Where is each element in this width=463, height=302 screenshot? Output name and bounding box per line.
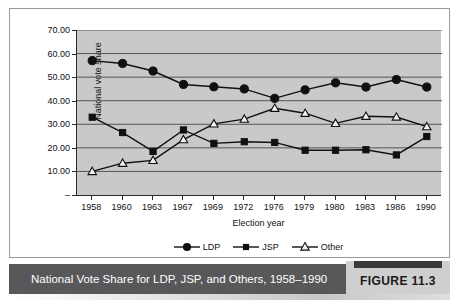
chart-card: National vote share 70.0060.0050.0040.00… (9, 8, 450, 258)
x-tick-mark (335, 195, 336, 200)
data-point-ldp-1967 (179, 80, 187, 88)
legend-label-jsp: JSP (262, 242, 279, 252)
y-tick-mark (72, 30, 76, 31)
x-tick-label-1972: 1972 (233, 202, 253, 212)
data-point-other-1976 (271, 104, 279, 111)
figure-number-tab: FIGURE 11.3 (346, 261, 450, 294)
y-tick-label: 30.00 (10, 119, 70, 129)
x-tick-mark (426, 195, 427, 200)
data-point-jsp-1963 (150, 148, 156, 154)
y-tick-label: 20.00 (10, 143, 70, 153)
legend-marker-filled-square (233, 241, 259, 253)
x-axis-line (76, 195, 441, 196)
x-tick-mark (395, 195, 396, 200)
x-tick-mark (152, 195, 153, 200)
x-tick-label-1958: 1958 (81, 202, 101, 212)
x-tick-label-1976: 1976 (264, 202, 284, 212)
data-point-jsp-1967 (180, 127, 186, 133)
data-point-ldp-1976 (271, 94, 279, 102)
figure-tab-accent-bar (354, 261, 442, 268)
y-tick-label: 60.00 (10, 49, 70, 59)
data-point-jsp-1980 (332, 147, 338, 153)
data-point-jsp-1983 (363, 147, 369, 153)
y-tick-mark (72, 171, 76, 172)
data-point-jsp-1990 (424, 133, 430, 139)
x-tick-label-1967: 1967 (172, 202, 192, 212)
caption-bar: National Vote Share for LDP, JSP, and Ot… (9, 264, 450, 294)
legend-item-other[interactable]: Other (292, 241, 344, 253)
x-tick-label-1986: 1986 (385, 202, 405, 212)
x-tick-mark (213, 195, 214, 200)
x-tick-label-1990: 1990 (416, 202, 436, 212)
x-tick-label-1969: 1969 (203, 202, 223, 212)
chart-legend: LDPJSPOther (76, 241, 441, 253)
y-tick-label: 10.00 (10, 166, 70, 176)
y-tick-label: 40.00 (10, 96, 70, 106)
x-axis-title: Election year (76, 218, 441, 228)
data-point-jsp-1976 (272, 139, 278, 145)
y-tick-mark (72, 124, 76, 125)
x-tick-mark (243, 195, 244, 200)
legend-marker-filled-circle (174, 241, 200, 253)
y-tick-mark (72, 101, 76, 102)
plot-area: National vote share (76, 30, 441, 195)
series-line-jsp (92, 117, 427, 155)
data-point-ldp-1990 (423, 83, 431, 91)
chart-plot-svg (77, 30, 442, 195)
y-tick-mark (72, 77, 76, 78)
x-tick-mark (122, 195, 123, 200)
y-tick-mark (72, 54, 76, 55)
x-tick-label-1979: 1979 (294, 202, 314, 212)
series-line-ldp (92, 61, 427, 99)
data-point-jsp-1960 (120, 129, 126, 135)
data-point-jsp-1958 (89, 114, 95, 120)
legend-marker-open-triangle (292, 241, 318, 253)
legend-item-ldp[interactable]: LDP (174, 241, 221, 253)
figure-number-label: FIGURE 11.3 (346, 268, 450, 294)
legend-item-jsp[interactable]: JSP (233, 241, 279, 253)
caption-shadow (9, 294, 450, 300)
data-point-jsp-1969 (211, 140, 217, 146)
x-tick-mark (182, 195, 183, 200)
figure-caption: National Vote Share for LDP, JSP, and Ot… (31, 264, 327, 294)
data-point-ldp-1972 (240, 85, 248, 93)
data-point-ldp-1980 (331, 79, 339, 87)
y-tick-label: 70.00 (10, 25, 70, 35)
figure-container: National vote share 70.0060.0050.0040.00… (0, 0, 463, 302)
data-point-jsp-1986 (393, 152, 399, 158)
x-tick-label-1963: 1963 (142, 202, 162, 212)
x-tick-label-1980: 1980 (325, 202, 345, 212)
x-tick-label-1960: 1960 (112, 202, 132, 212)
legend-label-ldp: LDP (203, 242, 221, 252)
data-point-ldp-1958 (88, 57, 96, 65)
y-tick-label: 50.00 (10, 72, 70, 82)
data-point-ldp-1963 (149, 67, 157, 75)
x-tick-mark (91, 195, 92, 200)
y-tick-mark (72, 148, 76, 149)
data-point-ldp-1986 (392, 75, 400, 83)
data-point-ldp-1960 (119, 59, 127, 67)
data-point-jsp-1972 (241, 139, 247, 145)
data-point-other-1967 (179, 135, 187, 142)
x-tick-label-1983: 1983 (355, 202, 375, 212)
series-line-other (92, 108, 427, 171)
data-point-jsp-1979 (302, 147, 308, 153)
y-tick-label: – (10, 190, 70, 200)
x-tick-mark (365, 195, 366, 200)
x-tick-mark (304, 195, 305, 200)
data-point-other-1963 (149, 156, 157, 163)
x-tick-mark (274, 195, 275, 200)
legend-label-other: Other (321, 242, 344, 252)
data-point-ldp-1979 (301, 86, 309, 94)
data-point-ldp-1969 (210, 83, 218, 91)
data-point-ldp-1983 (362, 83, 370, 91)
